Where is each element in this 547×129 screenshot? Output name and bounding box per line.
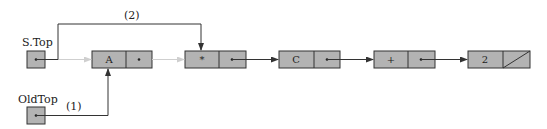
step-label-2: (2)	[124, 9, 140, 22]
pointer-old-top: OldTop	[18, 93, 58, 124]
pointer-s-top: S.Top	[22, 36, 53, 68]
list-node-2: 2	[468, 51, 530, 68]
node-value: A	[104, 54, 113, 65]
node-value: C	[292, 54, 300, 65]
node-value: 2	[482, 54, 488, 65]
pointer-label-s-top: S.Top	[22, 36, 53, 49]
node-box	[92, 51, 152, 68]
next-pointer-dot	[138, 58, 141, 61]
list-node-a: A	[92, 51, 152, 68]
step-label-1: (1)	[66, 100, 82, 113]
pointer-label-old-top: OldTop	[18, 93, 58, 106]
linked-list-diagram: S.Top OldTop A * C + 2	[0, 0, 547, 129]
node-box	[468, 51, 530, 68]
node-value: *	[200, 54, 205, 65]
node-value: +	[387, 54, 395, 65]
